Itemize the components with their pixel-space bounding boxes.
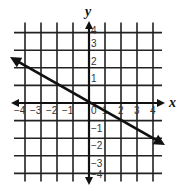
x-axis-arrow-right-icon (157, 99, 165, 107)
y-tick-label: 3 (91, 38, 97, 49)
x-tick-label: 4 (150, 105, 156, 116)
y-tick-label: 4 (91, 25, 97, 36)
y-tick-label: 2 (91, 56, 97, 67)
coordinate-plane: −4−3−2−1012344321−1−2−3−4 y x (0, 0, 181, 189)
x-tick-label: 2 (118, 105, 124, 116)
x-tick-label: −3 (30, 105, 42, 116)
x-tick-label: −2 (46, 105, 58, 116)
data-line (10, 57, 165, 145)
x-tick-label: −4 (14, 105, 26, 116)
y-tick-label: −4 (91, 169, 103, 180)
y-tick-label: 1 (91, 73, 97, 84)
x-tick-label: 3 (134, 105, 140, 116)
y-tick-label: −2 (91, 140, 103, 151)
axes (11, 21, 165, 185)
y-tick-label: −1 (91, 123, 103, 134)
y-tick-label: −3 (91, 158, 103, 169)
x-axis-label: x (168, 95, 176, 110)
y-axis-label: y (83, 4, 92, 19)
x-tick-label: −1 (62, 105, 74, 116)
